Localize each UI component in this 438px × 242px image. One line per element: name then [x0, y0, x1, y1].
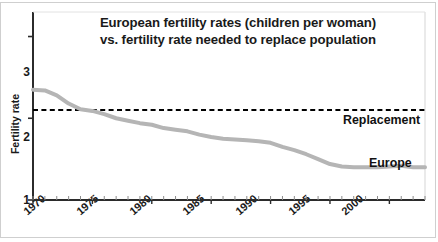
replacement-line-label: Replacement — [343, 113, 420, 127]
fertility-rate-chart-figure: European fertility rates (children per w… — [0, 0, 438, 242]
europe-series-line — [33, 90, 425, 168]
europe-series-label: Europe — [369, 156, 412, 170]
